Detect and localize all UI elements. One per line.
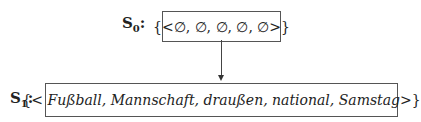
set-close: >} bbox=[400, 92, 421, 108]
state-s0-items: ∅, ∅, ∅, ∅, ∅ bbox=[174, 19, 270, 35]
state-s0-label: S0: bbox=[122, 14, 145, 34]
set-open: {< bbox=[153, 19, 174, 35]
state-s1-box: {< Fußball, Mannschaft, draußen, nationa… bbox=[45, 83, 398, 117]
state-letter: S bbox=[10, 89, 21, 107]
set-open: {< bbox=[22, 92, 43, 108]
state-letter: S bbox=[122, 14, 133, 32]
transition-arrow-line bbox=[221, 40, 222, 77]
state-colon: : bbox=[140, 14, 146, 32]
set-close: >} bbox=[269, 19, 290, 35]
arrow-down-icon bbox=[218, 75, 224, 81]
state-s1-items: Fußball, Mannschaft, draußen, national, … bbox=[47, 92, 400, 108]
state-s0-box: {<∅, ∅, ∅, ∅, ∅>} bbox=[162, 11, 281, 42]
state-subscript: 0 bbox=[133, 23, 140, 34]
